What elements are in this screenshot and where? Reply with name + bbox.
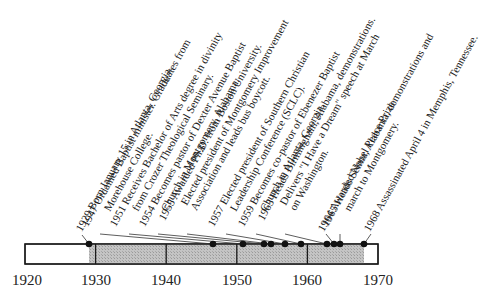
marker-1959: [298, 241, 305, 248]
marker-1968: [361, 241, 368, 248]
marker-1963: [324, 241, 331, 248]
marker-1954: [261, 241, 268, 248]
marker-1964: [331, 241, 338, 248]
marker-1951: [240, 241, 247, 248]
axis-tick-1960: 1960: [292, 272, 322, 289]
axis-tick-1950: 1950: [222, 272, 252, 289]
marker-1965: [337, 241, 344, 248]
axis-tick-1920: 1920: [12, 272, 42, 289]
axis-tick-1940: 1940: [151, 272, 181, 289]
marker-1957: [282, 241, 289, 248]
marker-1955: [268, 241, 275, 248]
axis-tick-1970: 1970: [363, 272, 393, 289]
marker-1929: [86, 241, 93, 248]
marker-1947: [210, 241, 217, 248]
axis-tick-1930: 1930: [81, 272, 111, 289]
lifespan-shading: [89, 245, 364, 264]
